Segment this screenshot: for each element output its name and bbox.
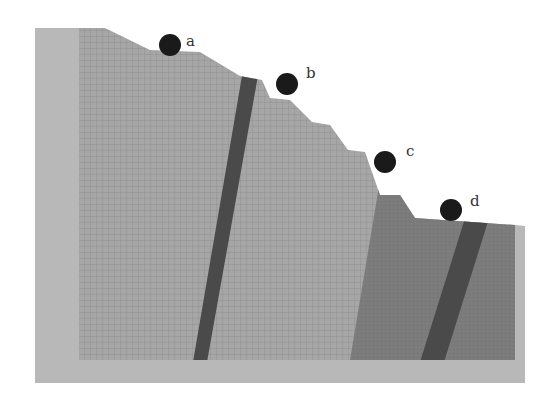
label-d: d bbox=[470, 192, 480, 210]
slope-diagram: a b c d bbox=[0, 0, 559, 408]
point-c: c bbox=[374, 142, 414, 173]
rock-ball-b bbox=[276, 73, 298, 95]
label-b: b bbox=[306, 64, 316, 82]
rock-mass bbox=[79, 28, 559, 362]
rock-ball-c bbox=[374, 151, 396, 173]
point-d: d bbox=[440, 192, 480, 221]
label-c: c bbox=[406, 142, 414, 160]
label-a: a bbox=[186, 32, 195, 50]
rock-ball-d bbox=[440, 199, 462, 221]
rock-ball-a bbox=[159, 34, 181, 56]
point-b: b bbox=[276, 64, 316, 95]
